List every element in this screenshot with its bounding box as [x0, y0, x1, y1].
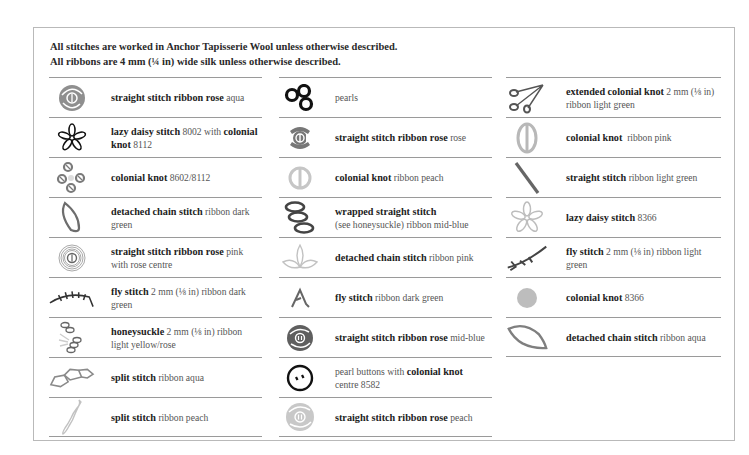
- stitch-name: straight stitch ribbon rose: [111, 92, 224, 103]
- stitch-name: colonial knot: [407, 366, 463, 377]
- note-ribbons: All ribbons are 4 mm (¼ in) wide silk un…: [50, 54, 397, 69]
- colonial-knot-pink-icon: [506, 118, 548, 158]
- detached-chain-leaf-icon: [49, 198, 95, 238]
- stitch-name: straight stitch ribbon rose: [335, 332, 448, 343]
- stitch-label: detached chain stitch ribbon aqua: [548, 331, 710, 344]
- stitch-label: detached chain stitch ribbon pink: [321, 251, 478, 264]
- stitch-row: straight stitch ribbon rose rose: [279, 117, 492, 157]
- stitch-row: detached chain stitch ribbon dark green: [49, 197, 262, 237]
- detached-chain-aqua-icon: [506, 317, 548, 357]
- stitch-name: fly stitch: [335, 292, 373, 303]
- stitch-row: pearls: [279, 77, 492, 117]
- stitch-name: lazy daisy stitch: [566, 212, 635, 223]
- stitch-label: split stitch ribbon aqua: [95, 371, 208, 384]
- ribbon-rose-pink-icon: [49, 238, 95, 278]
- stitch-label: straight stitch ribbon rose rose: [321, 131, 470, 144]
- general-notes: All stitches are worked in Anchor Tapiss…: [50, 39, 397, 69]
- stitch-detail: ribbon aqua: [156, 372, 204, 383]
- stitch-label: lazy daisy stitch 8002 with colonial kno…: [95, 125, 262, 151]
- stitch-label: colonial knot ribbon pink: [548, 131, 676, 144]
- stitch-detail: mid-blue: [448, 332, 485, 343]
- colonial-knot-peach-icon: [279, 158, 321, 198]
- stitch-label: straight stitch ribbon rose peach: [321, 411, 477, 424]
- stitch-detail: ribbon dark green: [373, 292, 444, 303]
- stitch-label: pearls: [321, 91, 362, 104]
- wrapped-straight-stitch-icon: [279, 198, 321, 238]
- stitch-name: detached chain stitch: [566, 332, 658, 343]
- stitch-name: fly stitch: [111, 286, 149, 297]
- stitch-label: straight stitch ribbon rose mid-blue: [321, 331, 489, 344]
- stitch-label: straight stitch ribbon rose aqua: [95, 91, 248, 104]
- stitch-name: extended colonial knot: [566, 86, 664, 97]
- stitch-column-3: extended colonial knot 2 mm (⅛ in) ribbo…: [506, 77, 721, 357]
- stitch-row: straight stitch ribbon rose mid-blue: [279, 317, 492, 357]
- pearl-button-icon: [279, 358, 321, 398]
- honeysuckle-icon: [49, 318, 95, 358]
- stitch-name: detached chain stitch: [111, 206, 203, 217]
- stitch-label: fly stitch 2 mm (⅛ in) ribbon light gree…: [548, 245, 721, 271]
- fly-stitch-dark-green-icon: [279, 278, 321, 318]
- stitch-label: wrapped straight stitch(see honeysuckle)…: [321, 205, 472, 231]
- stitch-name: detached chain stitch: [335, 252, 427, 263]
- stitch-row: fly stitch 2 mm (⅛ in) ribbon light gree…: [506, 237, 721, 277]
- split-stitch-aqua-icon: [49, 358, 95, 398]
- extended-colonial-knot-icon: [506, 78, 548, 118]
- stitch-row: straight stitch ribbon rose aqua: [49, 77, 262, 117]
- stitch-row: pearl buttons with colonial knot centre …: [279, 357, 492, 397]
- stitch-name: colonial knot: [566, 292, 622, 303]
- stitch-detail: rose: [448, 132, 466, 143]
- stitch-row: colonial knot ribbon pink: [506, 117, 721, 157]
- colonial-knot-cluster-icon: [49, 158, 95, 198]
- ribbon-rose-peach-icon: [279, 397, 321, 437]
- stitch-row: extended colonial knot 2 mm (⅛ in) ribbo…: [506, 77, 721, 117]
- split-stitch-peach-icon: [49, 397, 95, 437]
- stitch-label: straight stitch ribbon light green: [548, 171, 701, 184]
- stitch-detail: centre 8582: [335, 379, 380, 390]
- stitch-row: lazy daisy stitch 8002 with colonial kno…: [49, 117, 262, 157]
- stitch-label: fly stitch ribbon dark green: [321, 291, 447, 304]
- stitch-name: straight stitch ribbon rose: [335, 412, 448, 423]
- stitch-label: pearl buttons with colonial knot centre …: [321, 365, 492, 391]
- straight-stitch-icon: [506, 158, 548, 198]
- stitch-detail: (see honeysuckle) ribbon mid-blue: [335, 219, 468, 230]
- stitch-name: fly stitch: [566, 246, 604, 257]
- stitch-row: straight stitch ribbon rose peach: [279, 397, 492, 437]
- stitch-label: honeysuckle 2 mm (⅛ in) ribbon light yel…: [95, 325, 262, 351]
- stitch-label: lazy daisy stitch 8366: [548, 211, 661, 224]
- stitch-name: straight stitch: [566, 172, 626, 183]
- stitch-label: extended colonial knot 2 mm (⅛ in) ribbo…: [548, 85, 721, 111]
- stitch-row: wrapped straight stitch(see honeysuckle)…: [279, 197, 492, 237]
- colonial-knot-8366-icon: [506, 278, 548, 318]
- stitch-label: colonial knot 8602/8112: [95, 171, 214, 184]
- stitch-prefix: pearl buttons with: [335, 366, 407, 377]
- stitch-row: fly stitch ribbon dark green: [279, 277, 492, 317]
- stitch-row: honeysuckle 2 mm (⅛ in) ribbon light yel…: [49, 317, 262, 357]
- stitch-detail: ribbon peach: [391, 172, 443, 183]
- stitch-row: colonial knot 8366: [506, 277, 721, 317]
- ribbon-rose-mid-blue-icon: [279, 318, 321, 358]
- stitch-detail: ribbon pink: [427, 252, 474, 263]
- stitch-column-2: pearls straight stitch ribbon rose rose …: [279, 77, 492, 437]
- stitch-detail: ribbon pink: [622, 132, 671, 143]
- stitch-detail-2: 8112: [131, 139, 152, 150]
- stitch-row: split stitch ribbon peach: [49, 397, 262, 437]
- stitch-name: split stitch: [111, 372, 156, 383]
- stitch-row: lazy daisy stitch 8366: [506, 197, 721, 237]
- stitch-detail: 8366: [635, 212, 657, 223]
- ribbon-rose-rose-icon: [279, 118, 321, 158]
- stitch-detail: ribbon light green: [626, 172, 697, 183]
- stitch-row: colonial knot 8602/8112: [49, 157, 262, 197]
- stitch-label: fly stitch 2 mm (⅛ in) ribbon dark green: [95, 285, 262, 311]
- stitch-row: detached chain stitch ribbon pink: [279, 237, 492, 277]
- pearls-icon: [279, 78, 321, 118]
- lazy-daisy-black-icon: [49, 118, 95, 158]
- stitch-name: wrapped straight stitch: [335, 205, 468, 218]
- stitch-row: colonial knot ribbon peach: [279, 157, 492, 197]
- stitch-detail: 8002 with: [180, 126, 223, 137]
- stitch-detail: ribbon aqua: [658, 332, 706, 343]
- note-wool: All stitches are worked in Anchor Tapiss…: [50, 39, 397, 54]
- stitch-label: split stitch ribbon peach: [95, 411, 212, 424]
- fly-stitch-stem-icon: [49, 278, 95, 318]
- stitch-label: straight stitch ribbon rose pink with ro…: [95, 245, 262, 271]
- stitch-key-panel: All stitches are worked in Anchor Tapiss…: [33, 27, 735, 441]
